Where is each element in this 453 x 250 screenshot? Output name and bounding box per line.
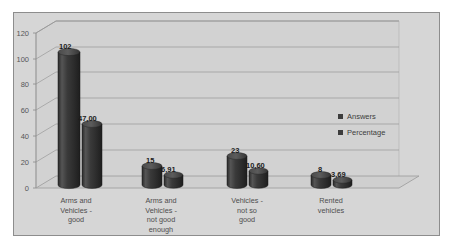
legend-swatch-answers-icon: [338, 114, 343, 119]
legend-swatch-percentage-icon: [338, 130, 343, 135]
data-label-answers-0: 102: [59, 42, 72, 51]
legend-label-answers: Answers: [347, 112, 376, 121]
legend-item-percentage[interactable]: Percentage: [338, 126, 385, 139]
data-label-percentage-0: 47,00: [78, 114, 97, 123]
x-category-label-3: Rented vehicles: [295, 196, 367, 215]
data-label-answers-3: 8: [318, 165, 322, 174]
data-label-percentage-3: 3,69: [331, 170, 346, 179]
data-label-answers-1: 15: [146, 156, 154, 165]
data-label-percentage-2: 10,60: [246, 161, 265, 170]
y-tick-40: 40: [7, 132, 29, 141]
x-category-label-0: Arms and Vehicles - good: [40, 196, 112, 225]
y-tick-80: 80: [7, 80, 29, 89]
chart-container: 120 100 80 60 40 20 0 102 47,00 15 6,91 …: [0, 0, 453, 250]
data-label-answers-2: 23: [231, 146, 239, 155]
y-tick-100: 100: [7, 55, 29, 64]
data-label-percentage-1: 6,91: [161, 165, 176, 174]
y-tick-20: 20: [7, 158, 29, 167]
x-category-label-2: Vehicles - not so good: [211, 196, 283, 225]
y-tick-120: 120: [7, 29, 29, 38]
legend-label-percentage: Percentage: [347, 128, 385, 137]
y-tick-60: 60: [7, 106, 29, 115]
legend-item-answers[interactable]: Answers: [338, 110, 385, 123]
chart-legend: Answers Percentage: [338, 110, 385, 142]
x-category-label-1: Arms and Vehicles - not good enough: [125, 196, 197, 234]
y-tick-0: 0: [7, 184, 29, 193]
